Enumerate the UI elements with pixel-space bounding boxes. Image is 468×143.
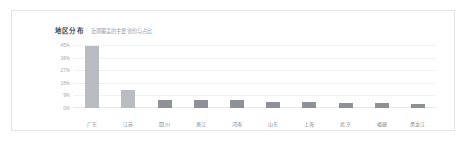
y-axis-tick: 36% (61, 55, 71, 60)
bar-slot (146, 45, 182, 108)
y-axis-tick: 27% (61, 68, 71, 73)
bar[interactable] (411, 104, 425, 108)
x-axis-label: 浙江 (196, 121, 206, 127)
bar[interactable] (266, 102, 280, 108)
y-axis-tick: 0% (63, 106, 70, 111)
x-axis-label-slot: 黑龙江 (400, 112, 436, 130)
x-axis-label-slot: 四川 (146, 112, 182, 130)
x-axis-label: 上海 (304, 121, 314, 127)
y-axis-tick: 18% (61, 80, 71, 85)
bar-slot (74, 45, 110, 108)
bar-chart: 45% 36% 27% 18% 9% 0% (52, 41, 442, 127)
x-axis-label: 江苏 (123, 121, 133, 127)
card-header: 地区分布 近期覆盖的主要省份与占比 (55, 25, 152, 35)
screenshot-root: 地区分布 近期覆盖的主要省份与占比 45% 36% 27% 18% 9% 0% (0, 0, 468, 143)
bar[interactable] (339, 103, 353, 108)
y-axis-tick: 9% (63, 93, 70, 98)
x-axis-label-slot: 山东 (255, 112, 291, 130)
bar-slot (219, 45, 255, 108)
bar-slot (110, 45, 146, 108)
x-axis-label-slot: 广东 (74, 112, 110, 130)
bar[interactable] (85, 46, 99, 108)
bar-slot (255, 45, 291, 108)
x-axis-label-slot: 北京 (327, 112, 363, 130)
card-subtitle: 近期覆盖的主要省份与占比 (91, 27, 152, 35)
bar[interactable] (375, 103, 389, 108)
x-axis-label: 山东 (268, 121, 278, 127)
bar-slot (183, 45, 219, 108)
x-axis-label-slot: 河南 (219, 112, 255, 130)
bar[interactable] (302, 102, 316, 108)
bar-series (74, 45, 436, 108)
x-axis-label: 黑龙江 (410, 121, 425, 127)
bar-slot (327, 45, 363, 108)
region-distribution-card: 地区分布 近期覆盖的主要省份与占比 45% 36% 27% 18% 9% 0% (11, 10, 455, 131)
x-axis-label: 河南 (232, 121, 242, 127)
bar[interactable] (158, 100, 172, 108)
x-axis-label: 广东 (87, 121, 97, 127)
x-axis-label-slot: 福建 (364, 112, 400, 130)
bar[interactable] (230, 100, 244, 108)
bar-slot (400, 45, 436, 108)
page-title: 地区分布 (55, 25, 84, 35)
x-axis-label-slot: 浙江 (183, 112, 219, 130)
x-axis-label-slot: 江苏 (110, 112, 146, 130)
bar-slot (364, 45, 400, 108)
bar[interactable] (194, 100, 208, 108)
bar-slot (291, 45, 327, 108)
x-axis-label: 四川 (159, 121, 169, 127)
plot-area: 45% 36% 27% 18% 9% 0% (74, 45, 436, 108)
x-axis-label-slot: 上海 (291, 112, 327, 130)
x-axis-labels: 广东 江苏 四川 浙江 河南 山东 上海 北京 福建 黑龙江 (74, 112, 436, 124)
bar[interactable] (121, 90, 135, 108)
x-axis-label: 福建 (377, 121, 387, 127)
y-axis-tick: 45% (61, 43, 71, 48)
x-axis-label: 北京 (340, 121, 350, 127)
